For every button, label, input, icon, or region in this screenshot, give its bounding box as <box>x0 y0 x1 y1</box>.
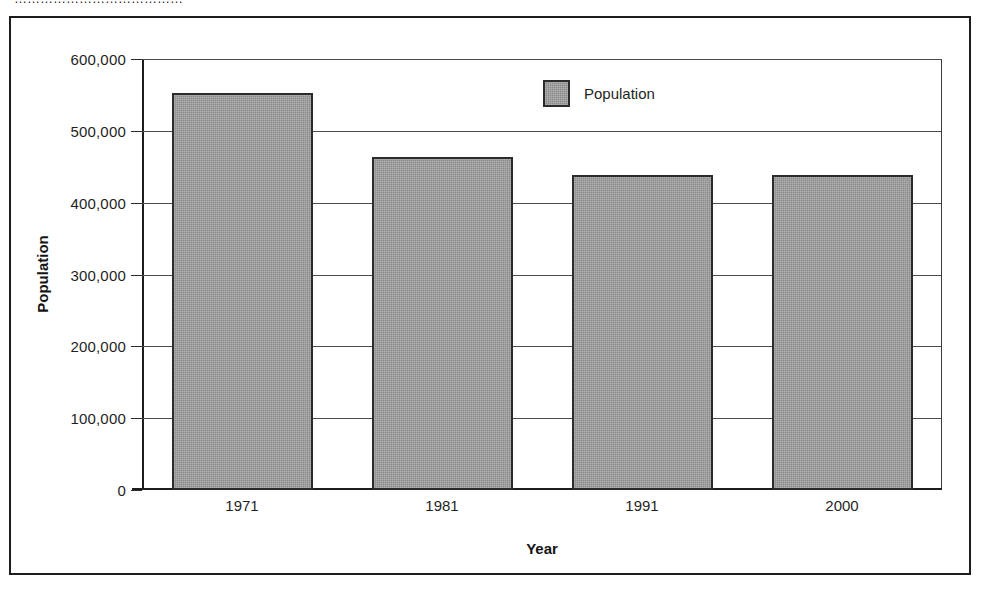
y-tick-label: 0 <box>117 482 126 499</box>
x-tick-label-1981: 1981 <box>425 497 458 514</box>
bar-1981 <box>372 157 513 490</box>
y-tick-100000 <box>131 418 142 419</box>
y-tick-label: 500,000 <box>70 122 126 139</box>
cut-off-caption-sliver: ………………………………… <box>0 0 984 5</box>
gridline-600000 <box>142 59 942 60</box>
x-tick-label-1991: 1991 <box>625 497 658 514</box>
x-axis-title: Year <box>142 540 942 557</box>
y-tick-label: 100,000 <box>70 410 126 427</box>
x-tick-label-1971: 1971 <box>225 497 258 514</box>
bar-1971 <box>172 93 313 490</box>
y-axis-title: Population <box>34 235 51 313</box>
y-tick-0 <box>131 490 142 491</box>
x-tick-label-2000: 2000 <box>825 497 858 514</box>
legend-swatch-population <box>543 80 570 107</box>
chart-figure-frame: Population 0100,000200,000300,000400,000… <box>9 16 971 575</box>
bar-1991 <box>572 175 713 490</box>
y-tick-300000 <box>131 275 142 276</box>
legend: Population <box>543 80 655 107</box>
y-tick-label: 300,000 <box>70 266 126 283</box>
y-tick-label: 400,000 <box>70 194 126 211</box>
y-tick-500000 <box>131 131 142 132</box>
legend-label-population: Population <box>584 85 655 102</box>
bar-2000 <box>772 175 913 490</box>
y-tick-label: 600,000 <box>70 51 126 68</box>
y-tick-400000 <box>131 203 142 204</box>
y-tick-200000 <box>131 346 142 347</box>
y-tick-label: 200,000 <box>70 338 126 355</box>
y-tick-600000 <box>131 59 142 60</box>
plot-area: 0100,000200,000300,000400,000500,000600,… <box>142 59 942 490</box>
